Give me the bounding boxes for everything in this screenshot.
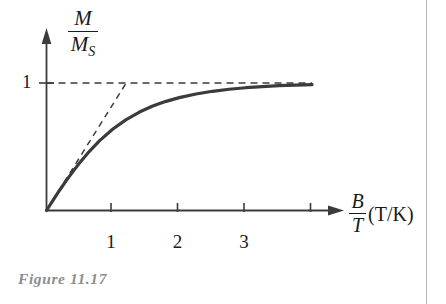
- y-axis-tick-label-1: 1: [22, 72, 32, 91]
- x-axis-label-denominator: T: [349, 215, 366, 236]
- y-axis-label-numerator: M: [57, 8, 109, 30]
- x-axis-tick-label-1: 1: [101, 231, 121, 253]
- x-axis-label-units: (T/K): [368, 203, 414, 224]
- x-axis-tick-label-3: 3: [234, 231, 254, 253]
- y-axis-label: M MS: [57, 8, 109, 60]
- x-axis: [47, 206, 345, 216]
- x-axis-label: B T (T/K): [349, 191, 414, 236]
- x-axis-label-fraction: B T: [349, 191, 366, 236]
- x-axis-label-numerator: B: [349, 191, 366, 212]
- magnetization-curve: [47, 85, 313, 211]
- figure-container: M MS 1 1 2 3 B T (T/K) Figure 11.17: [0, 0, 446, 304]
- x-axis-tick-label-2: 2: [168, 231, 188, 253]
- page-column-rule: [426, 0, 427, 304]
- y-axis-label-denominator-base: M: [71, 32, 89, 56]
- figure-caption: Figure 11.17: [18, 270, 107, 288]
- y-axis-label-denominator: MS: [57, 34, 109, 59]
- y-axis: [42, 28, 52, 210]
- y-axis-label-denominator-subscript: S: [88, 45, 95, 60]
